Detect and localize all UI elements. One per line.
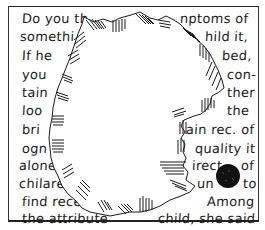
torn-hole-edge: [49, 12, 224, 216]
ink-blot: [216, 164, 240, 188]
torn-hole-illustration: [0, 0, 265, 230]
